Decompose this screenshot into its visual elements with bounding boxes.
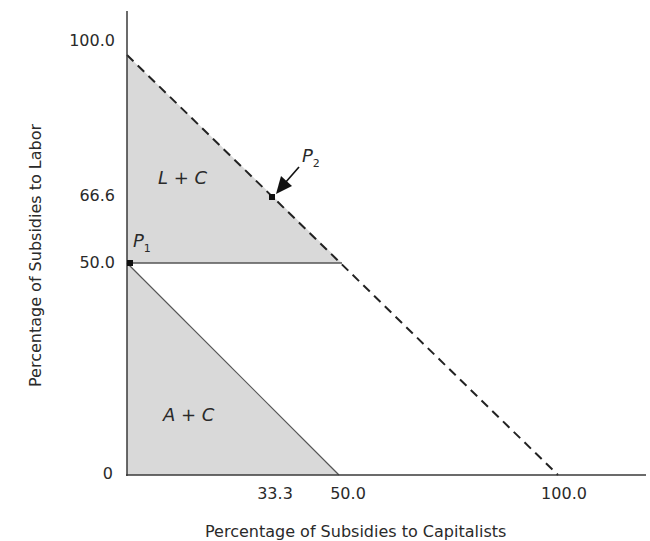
x-tick-100: 100.0	[534, 484, 594, 503]
p1-marker	[127, 260, 133, 266]
y-tick-50: 50.0	[55, 253, 115, 272]
x-tick-33-3: 33.3	[245, 484, 305, 503]
p1-letter: P	[133, 230, 144, 251]
y-axis-title: Percentage of Subsidies to Labor	[26, 124, 45, 387]
y-tick-66-6: 66.6	[55, 186, 115, 205]
p2-marker	[269, 194, 275, 200]
region-label-l-plus-c: L + C	[158, 167, 207, 188]
y-tick-100: 100.0	[55, 31, 115, 50]
point-label-p2: P2	[302, 145, 320, 170]
x-axis-title: Percentage of Subsidies to Capitalists	[205, 522, 506, 541]
y-tick-0: 0	[53, 464, 113, 483]
p2-letter: P	[302, 145, 313, 166]
p2-subscript: 2	[313, 157, 320, 170]
point-label-p1: P1	[133, 230, 151, 255]
p2-arrow-shaft	[285, 167, 299, 183]
x-tick-50: 50.0	[318, 484, 378, 503]
p1-subscript: 1	[144, 242, 151, 255]
region-label-a-plus-c: A + C	[163, 404, 214, 425]
